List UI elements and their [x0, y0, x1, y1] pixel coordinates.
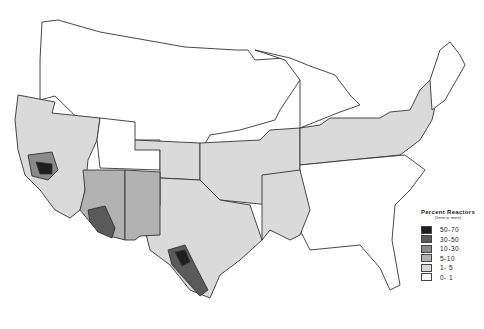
legend-label: 10-30	[440, 245, 459, 252]
region-new-england	[430, 42, 465, 110]
legend-swatch	[421, 264, 432, 272]
legend-swatch	[421, 273, 432, 281]
legend-item: 5-10	[421, 254, 483, 264]
region-new-mexico	[125, 170, 160, 240]
legend-label: 0- 1	[440, 274, 453, 281]
legend-swatch	[421, 254, 432, 262]
legend-label: 1- 5	[440, 264, 453, 271]
legend: Percent Reactors (5mm or more) 50-70 30-…	[413, 209, 483, 282]
legend-subtitle: (5mm or more)	[413, 215, 483, 220]
legend-label: 5-10	[440, 255, 455, 262]
legend-label: 50-70	[440, 226, 459, 233]
legend-swatch	[421, 245, 432, 253]
legend-swatch	[421, 235, 432, 243]
legend-item: 50-70	[421, 225, 483, 235]
legend-swatch	[421, 226, 432, 234]
legend-item: 30-50	[421, 235, 483, 245]
legend-item: 1- 5	[421, 263, 483, 273]
legend-item: 10-30	[421, 244, 483, 254]
us-choropleth-map	[0, 0, 484, 329]
legend-label: 30-50	[440, 236, 459, 243]
legend-item: 0- 1	[421, 273, 483, 283]
region-southeast	[300, 155, 425, 290]
